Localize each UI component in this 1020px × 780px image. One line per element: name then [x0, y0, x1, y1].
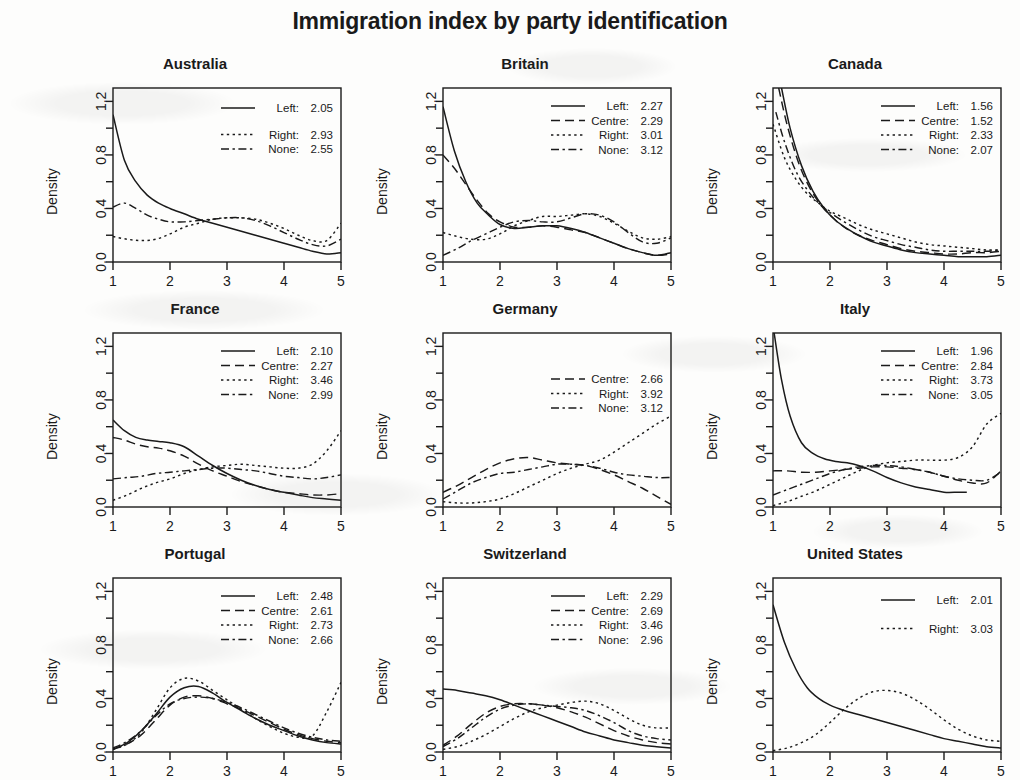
legend-label: Centre:	[591, 373, 629, 385]
y-tick-label: 0.4	[753, 199, 769, 219]
y-tick-label: 0.0	[93, 252, 109, 272]
x-tick-label: 4	[280, 763, 288, 779]
legend-label: Right:	[269, 129, 299, 141]
curves	[113, 115, 341, 254]
curves	[773, 605, 1001, 751]
legend-label: None:	[268, 389, 299, 401]
legend-label: Right:	[599, 619, 629, 631]
panel-united-states: United StatesDensity0.00.40.81.212345Lef…	[690, 545, 1020, 780]
x-tick-label: 4	[940, 518, 948, 534]
y-axis-label: Density	[374, 168, 390, 215]
density-curve-none	[443, 214, 671, 256]
legend-label: None:	[268, 634, 299, 646]
y-tick-label: 0.4	[423, 199, 439, 219]
legend-value: 3.05	[971, 389, 993, 401]
panel-title: Italy	[690, 300, 1020, 317]
legend-value: 3.03	[971, 623, 993, 635]
density-curve-left	[443, 107, 671, 256]
legend-value: 2.99	[311, 389, 333, 401]
legend-label: Right:	[929, 129, 959, 141]
x-tick-label: 1	[109, 763, 117, 779]
y-tick-label: 0.0	[423, 252, 439, 272]
y-tick-label: 0.0	[423, 497, 439, 517]
legend-label: None:	[928, 389, 959, 401]
legend-value: 2.05	[311, 102, 333, 114]
legend-value: 2.07	[971, 144, 993, 156]
legend-value: 1.96	[971, 345, 993, 357]
y-tick-label: 0.4	[753, 689, 769, 709]
density-curve-none	[776, 112, 1001, 251]
y-tick-label: 0.4	[423, 689, 439, 709]
x-tick-label: 2	[166, 518, 174, 534]
y-tick-label: 0.4	[423, 444, 439, 464]
y-tick-label: 0.8	[93, 145, 109, 165]
legend-label: Right:	[929, 623, 959, 635]
x-tick-label: 4	[280, 273, 288, 289]
density-curve-left	[773, 605, 1001, 748]
legend-label: Centre:	[921, 115, 959, 127]
y-tick-label: 0.0	[93, 742, 109, 762]
legend-value: 2.48	[311, 590, 333, 602]
legend-label: Right:	[269, 619, 299, 631]
x-tick-label: 5	[337, 273, 345, 289]
density-curve-right	[773, 124, 1001, 250]
legend-value: 2.84	[971, 360, 994, 372]
x-tick-label: 1	[109, 518, 117, 534]
plot-frame	[773, 333, 1001, 507]
panel-britain: BritainDensity0.00.40.81.212345Left:2.27…	[360, 55, 690, 300]
y-axis-label: Density	[44, 413, 60, 460]
legend-label: None:	[268, 143, 299, 155]
legend-value: 3.12	[641, 402, 663, 414]
plot-area: 0.00.40.81.212345Left:2.10Centre:2.27Rig…	[30, 300, 360, 545]
y-axis-label: Density	[704, 168, 720, 215]
y-tick-label: 0.0	[753, 252, 769, 272]
density-curve-none	[113, 697, 341, 748]
x-tick-label: 1	[439, 518, 447, 534]
x-tick-label: 5	[667, 273, 675, 289]
y-tick-label: 1.2	[753, 336, 769, 356]
plot-frame	[773, 578, 1001, 752]
y-tick-label: 0.8	[753, 635, 769, 655]
y-tick-label: 0.0	[753, 497, 769, 517]
legend-value: 2.96	[641, 634, 663, 646]
density-curve-centre	[113, 696, 341, 750]
density-curve-none	[113, 203, 341, 246]
legend-value: 3.73	[971, 374, 993, 386]
y-tick-label: 1.2	[423, 336, 439, 356]
legend-value: 3.12	[641, 144, 663, 156]
density-curve-right	[443, 416, 671, 503]
y-axis-label: Density	[374, 413, 390, 460]
legend-value: 2.93	[311, 129, 333, 141]
plot-frame	[113, 333, 341, 507]
x-tick-label: 3	[553, 518, 561, 534]
panel-portugal: PortugalDensity0.00.40.81.212345Left:2.4…	[30, 545, 360, 780]
legend-value: 2.27	[641, 100, 663, 112]
density-curve-right	[113, 218, 341, 242]
y-tick-label: 0.4	[93, 199, 109, 219]
y-tick-label: 0.8	[423, 145, 439, 165]
legend-value: 2.33	[971, 129, 993, 141]
density-curve-centre	[773, 467, 1001, 484]
x-tick-label: 5	[337, 763, 345, 779]
legend-label: Centre:	[591, 605, 629, 617]
plot-area: 0.00.40.81.212345Left:1.96Centre:2.84Rig…	[690, 300, 1020, 545]
legend-value: 1.56	[971, 100, 993, 112]
x-tick-label: 3	[553, 273, 561, 289]
legend-label: Centre:	[921, 360, 959, 372]
x-tick-label: 1	[769, 518, 777, 534]
y-tick-label: 1.2	[423, 581, 439, 601]
x-tick-label: 3	[883, 518, 891, 534]
legend-value: 2.29	[641, 590, 663, 602]
x-tick-label: 3	[223, 763, 231, 779]
legend-value: 3.46	[641, 619, 663, 631]
x-tick-label: 3	[223, 518, 231, 534]
panel-title: Britain	[360, 55, 690, 72]
panel-title: Switzerland	[360, 545, 690, 562]
x-tick-label: 1	[109, 273, 117, 289]
legend-label: None:	[598, 144, 629, 156]
y-tick-label: 0.8	[753, 390, 769, 410]
x-tick-label: 4	[610, 273, 618, 289]
density-curve-none	[773, 465, 1001, 495]
y-tick-label: 1.2	[753, 581, 769, 601]
legend-label: Centre:	[591, 115, 629, 127]
